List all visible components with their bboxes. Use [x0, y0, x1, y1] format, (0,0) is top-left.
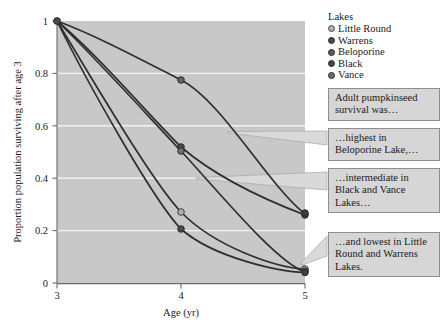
callout-text-line: Adult pumpkinseed [335, 92, 434, 104]
legend-item-vance[interactable]: Vance [328, 69, 446, 81]
y-tick-label: 0.8 [35, 68, 48, 79]
callout-highest: …highest in Beloporine Lake,… [328, 128, 440, 161]
x-tick-label: 4 [178, 290, 184, 301]
legend-title: Lakes [328, 11, 446, 23]
legend-item-beloporine[interactable]: Beloporine [328, 46, 446, 58]
legend-label-beloporine: Beloporine [338, 46, 385, 58]
y-tick-label: 0.4 [35, 173, 49, 184]
leader-line-littleround-warrens [302, 236, 327, 265]
y-tick-labels: 1 0.8 0.6 0.4 0.2 0 [35, 16, 49, 289]
legend-label-black: Black [338, 58, 363, 70]
legend-swatch-beloporine [328, 49, 335, 56]
chart-figure: 1 0.8 0.6 0.4 0.2 0 3 4 5 Age (yr) Propo… [0, 0, 447, 325]
y-tick-label: 0.2 [35, 225, 48, 236]
callout-text-line: …and lowest in Little [335, 236, 434, 248]
point-beloporine-age4 [178, 77, 185, 84]
x-tick-label: 5 [302, 290, 307, 301]
legend-item-black[interactable]: Black [328, 58, 446, 70]
callout-text-line: …intermediate in [335, 172, 434, 184]
point-little-round-age4 [178, 209, 185, 216]
y-tick-label: 1 [43, 16, 48, 27]
callout-lowest: …and lowest in Little Round and Warrens … [328, 232, 440, 277]
callout-text-line: …highest in [335, 132, 434, 144]
x-axis-title: Age (yr) [163, 307, 199, 319]
x-tick-labels: 3 4 5 [54, 290, 307, 301]
legend: Lakes Little Round Warrens Beloporine Bl… [328, 11, 446, 81]
callout-text-line: Lakes… [335, 197, 434, 209]
point-beloporine-age5 [302, 210, 309, 217]
legend-item-little-round[interactable]: Little Round [328, 23, 446, 35]
legend-swatch-little-round [328, 25, 335, 32]
legend-swatch-vance [328, 72, 335, 79]
legend-label-vance: Vance [338, 69, 364, 81]
legend-label-warrens: Warrens [338, 35, 373, 47]
point-origin [54, 18, 61, 25]
x-tick-label: 3 [54, 290, 59, 301]
legend-label-little-round: Little Round [338, 23, 391, 35]
callout-text-line: Beloporine Lake,… [335, 144, 434, 156]
y-axis-ticks [53, 21, 58, 283]
point-warrens-age5 [302, 269, 309, 276]
callout-text-line: Black and Vance [335, 184, 434, 196]
callout-text-line: Lakes. [335, 261, 434, 273]
legend-swatch-black [328, 60, 335, 67]
callout-intro: Adult pumpkinseed survival was… [328, 88, 440, 121]
callout-intermediate: …intermediate in Black and Vance Lakes… [328, 168, 440, 213]
legend-swatch-warrens [328, 37, 335, 44]
legend-item-warrens[interactable]: Warrens [328, 35, 446, 47]
callout-text-line: Round and Warrens [335, 248, 434, 260]
point-warrens-age4 [178, 226, 185, 233]
y-tick-label: 0.6 [35, 121, 48, 132]
point-vance-age4 [178, 148, 185, 155]
y-tick-label: 0 [43, 278, 48, 289]
callout-text-line: survival was… [335, 104, 434, 116]
y-axis-title: Proportion population surviving after ag… [12, 61, 23, 243]
x-axis-ticks [57, 284, 305, 289]
